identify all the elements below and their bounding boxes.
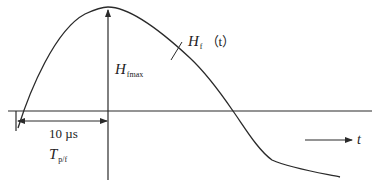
time-axis-label: t [357, 133, 361, 147]
curve-label-tick [171, 42, 182, 60]
rise-time-symbol-main: T [49, 146, 57, 162]
curve-function-label: Hf（t） [188, 34, 235, 51]
curve-label-sub: f [200, 42, 203, 51]
curve-label-main: H [188, 33, 199, 49]
peak-label-main: H [115, 61, 126, 77]
rise-time-symbol-sub: p/f [58, 155, 67, 164]
curve-label-arg: （t） [206, 34, 236, 49]
rise-time-symbol: Tp/f [49, 147, 67, 164]
peak-label-sub: fmax [127, 70, 143, 79]
rise-time-value: 10 µs [49, 127, 78, 140]
waveform-diagram: Hfmax Hf（t） 10 µs Tp/f t [0, 0, 375, 184]
peak-amplitude-label: Hfmax [115, 62, 143, 79]
